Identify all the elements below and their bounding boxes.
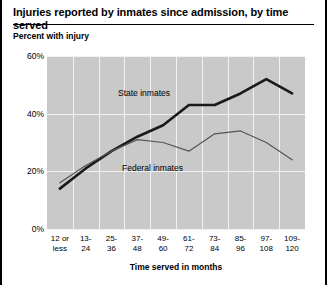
title-divider xyxy=(13,24,314,25)
x-axis-tick-label: 109-120 xyxy=(275,234,309,253)
x-axis-title: Time served in months xyxy=(47,262,305,272)
series-label-state: State inmates xyxy=(118,88,170,98)
x-axis-labels: 12 orless13-2425-3637-4849-6061-7273-848… xyxy=(47,234,305,258)
y-axis-note: Percent with injury xyxy=(13,31,89,41)
series-lines xyxy=(47,56,305,229)
series-label-federal: Federal inmates xyxy=(122,163,183,173)
y-axis-tick-label: 60% xyxy=(4,51,44,61)
gridline-horizontal xyxy=(47,229,305,230)
chart-title: Injuries reported by inmates since admis… xyxy=(13,6,313,32)
y-axis-tick-label: 40% xyxy=(4,109,44,119)
y-axis-tick-label: 0% xyxy=(4,224,44,234)
plot-area xyxy=(47,56,305,229)
y-axis-tick-label: 20% xyxy=(4,166,44,176)
y-axis-labels: 0%20%40%60% xyxy=(0,56,44,229)
series-line-federal xyxy=(60,131,292,183)
chart-figure: Injuries reported by inmates since admis… xyxy=(0,0,327,285)
